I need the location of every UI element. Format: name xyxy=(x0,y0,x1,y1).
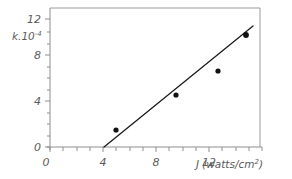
x-axis-minor-ticks xyxy=(63,147,262,151)
x-tick-labels: 0 4 8 12 xyxy=(43,156,217,169)
x-axis-title-symbol: J xyxy=(194,158,199,170)
x-axis-title-close: ) xyxy=(258,158,263,170)
data-point xyxy=(243,32,249,38)
data-point xyxy=(215,68,220,73)
y-axis-major-ticks xyxy=(45,19,50,147)
y-tick-label-12: 12 xyxy=(27,13,41,26)
y-axis-title: k.10-4 xyxy=(12,30,42,42)
y-axis-title-exponent: -4 xyxy=(35,30,42,38)
x-axis-title-units: (watts/cm xyxy=(202,158,254,170)
fit-line xyxy=(104,26,253,147)
x-tick-label-4: 4 xyxy=(100,156,107,169)
data-points xyxy=(113,32,249,133)
y-axis-title-symbol: k.10 xyxy=(12,30,35,42)
data-point xyxy=(173,92,178,97)
y-tick-label-0: 0 xyxy=(34,141,41,154)
x-axis-title: J(watts/cm2) xyxy=(194,158,263,170)
chart-figure: 12 8 4 0 0 4 8 12 k.10-4 J(watts/cm2) xyxy=(0,0,292,179)
plot-frame xyxy=(47,8,262,150)
x-tick-label-8: 8 xyxy=(153,156,160,169)
plot-svg: 12 8 4 0 0 4 8 12 k.10-4 J(watts/cm2) xyxy=(0,0,292,179)
y-tick-label-4: 4 xyxy=(34,95,41,108)
data-point xyxy=(113,127,118,132)
y-tick-label-8: 8 xyxy=(34,49,41,62)
x-tick-label-0: 0 xyxy=(43,156,50,169)
